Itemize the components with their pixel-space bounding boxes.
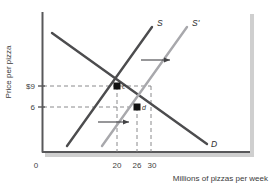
equilibrium-label-c: c	[122, 83, 126, 90]
y-axis-title: Price per pizza	[4, 45, 13, 98]
y-tick-label-9: $9	[26, 82, 35, 91]
supply-curve-shifted-label: S'	[192, 18, 200, 28]
equilibrium-point-d	[134, 104, 141, 111]
demand-curve-label: D	[211, 139, 217, 149]
equilibrium-point-c	[114, 83, 121, 90]
x-tick-label-20: 20	[113, 161, 122, 170]
x-axis-title: Millions of pizzas per week	[173, 174, 269, 183]
figure-container: S S' D c d $9 6 20 26 30 0 Millions of p…	[0, 0, 274, 185]
x-tick-label-30: 30	[148, 161, 157, 170]
plot-shadow-right	[250, 14, 254, 156]
y-tick-label-6: 6	[31, 103, 36, 112]
supply-curve-original-label: S	[157, 18, 163, 28]
x-tick-label-26: 26	[133, 161, 142, 170]
origin-label: 0	[34, 161, 39, 170]
supply-demand-chart: S S' D c d $9 6 20 26 30 0 Millions of p…	[0, 0, 274, 185]
plot-area	[42, 12, 250, 152]
plot-shadow-bottom	[45, 153, 254, 157]
